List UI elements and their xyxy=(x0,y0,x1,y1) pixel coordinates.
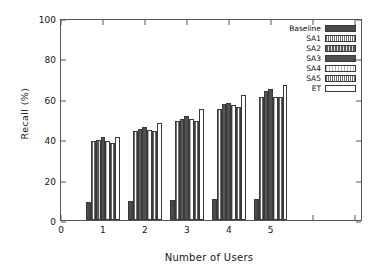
legend-item: SA4 xyxy=(306,64,356,73)
legend-label: SA2 xyxy=(306,44,321,53)
legend-label: SA3 xyxy=(306,54,321,63)
y-tick-label: 0 xyxy=(50,217,56,227)
legend-label: SA4 xyxy=(306,64,321,73)
y-tick-mark-right xyxy=(356,20,361,21)
y-tick-mark xyxy=(61,222,66,223)
legend-label: SA1 xyxy=(306,34,321,43)
y-tick-mark xyxy=(61,141,66,142)
y-tick-label: 100 xyxy=(39,15,56,25)
y-tick-label: 80 xyxy=(45,55,56,65)
legend-item: SA5 xyxy=(306,74,356,83)
legend-label: SA5 xyxy=(306,74,321,83)
y-tick-mark xyxy=(61,20,66,21)
y-axis-title: Recall (%) xyxy=(19,59,30,169)
legend-swatch xyxy=(325,35,356,42)
x-tick-label: 2 xyxy=(142,225,148,235)
legend: BaselineSA1SA2SA3SA4SA5ET xyxy=(285,22,358,95)
x-tick-mark-top xyxy=(102,20,103,25)
x-tick-mark xyxy=(312,215,313,220)
legend-swatch xyxy=(325,65,356,72)
x-tick-mark-top xyxy=(144,20,145,25)
y-tick-mark-right xyxy=(356,141,361,142)
x-tick-mark xyxy=(61,215,62,220)
x-tick-label: 5 xyxy=(268,225,274,235)
y-tick-mark-right xyxy=(356,222,361,223)
y-tick-mark xyxy=(61,100,66,101)
legend-swatch xyxy=(325,45,356,52)
x-tick-mark-top xyxy=(228,20,229,25)
x-tick-label: 3 xyxy=(184,225,190,235)
y-tick-mark xyxy=(61,181,66,182)
legend-item: SA1 xyxy=(306,34,356,43)
y-tick-mark xyxy=(61,60,66,61)
figure: Recall (%) Number of Users 020406080100 … xyxy=(0,0,377,276)
legend-label: ET xyxy=(312,84,321,93)
x-tick-mark-top xyxy=(186,20,187,25)
legend-item: ET xyxy=(312,84,356,93)
legend-swatch xyxy=(325,85,356,92)
x-tick-label: 4 xyxy=(226,225,232,235)
x-tick-mark xyxy=(354,215,355,220)
legend-item: SA3 xyxy=(306,54,356,63)
legend-item: SA2 xyxy=(306,44,356,53)
bar xyxy=(157,123,162,220)
y-tick-mark-right xyxy=(356,181,361,182)
y-tick-label: 60 xyxy=(45,96,56,106)
x-tick-mark-top xyxy=(61,20,62,25)
legend-swatch xyxy=(325,75,356,82)
legend-swatch xyxy=(325,25,356,32)
legend-label: Baseline xyxy=(289,24,321,33)
bar xyxy=(115,137,120,220)
bar xyxy=(283,85,288,220)
legend-swatch xyxy=(325,55,356,62)
x-axis-title: Number of Users xyxy=(56,252,362,263)
plot-area: 020406080100 012345 BaselineSA1SA2SA3SA4… xyxy=(60,19,362,221)
x-tick-label: 0 xyxy=(58,225,64,235)
legend-item: Baseline xyxy=(289,24,356,33)
x-tick-label: 1 xyxy=(100,225,106,235)
bar xyxy=(199,109,204,220)
y-tick-mark-right xyxy=(356,100,361,101)
y-tick-label: 40 xyxy=(45,136,56,146)
x-tick-mark-top xyxy=(270,20,271,25)
y-tick-label: 20 xyxy=(45,177,56,187)
bar xyxy=(241,95,246,220)
